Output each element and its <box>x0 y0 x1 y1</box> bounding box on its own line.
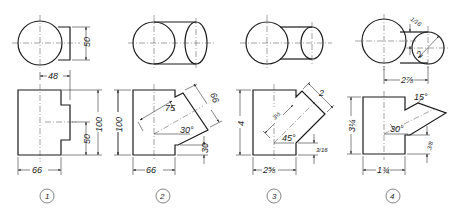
figure-2-front-view: 75 66 30° 30 100 66 <box>114 84 222 175</box>
dim-offset-bottom: 3/8 <box>426 140 434 150</box>
dim-width: 66 <box>146 165 156 175</box>
dim-branch-length: 75 <box>165 103 176 113</box>
dim-tip-angle: 15° <box>414 92 428 102</box>
dim-height: 100 <box>114 117 124 132</box>
figure-4-front-view: 15° 30° 3¼ 3/8 1¾ <box>346 91 446 175</box>
figure-3-label: 3 <box>267 189 281 203</box>
figure-2-top-view <box>128 15 214 70</box>
figure-2: 75 66 30° 30 100 66 2 <box>114 15 222 203</box>
dim-center-distance: 2⅞ <box>400 75 414 85</box>
figure-4-top-view: 1/16 2 2⅞ <box>355 14 450 86</box>
dim-width: 2⅝ <box>262 165 276 175</box>
svg-text:4: 4 <box>390 192 395 201</box>
dim-height: 4 <box>236 121 246 126</box>
dim-angle: 30° <box>180 125 194 135</box>
figure-3: 3½ 2 45° 3/16 4 2⅝ 3 <box>236 15 334 203</box>
svg-text:1: 1 <box>45 192 49 201</box>
svg-text:2: 2 <box>159 192 165 201</box>
dim-angle: 45° <box>282 133 296 143</box>
dim-top-height: 50 <box>82 37 92 47</box>
figure-2-label: 2 <box>156 189 170 203</box>
dim-branch-height: 50 <box>82 134 92 144</box>
figure-3-top-view <box>240 15 332 70</box>
dim-offset-bottom: 3/16 <box>316 147 328 153</box>
dim-height: 3¼ <box>347 119 357 132</box>
dim-top-gap: 1/16 <box>409 16 423 28</box>
figure-1: 50 48 50 100 100 66 <box>12 15 124 203</box>
figure-1-front-view: 48 50 100 100 66 <box>18 70 124 175</box>
figure-4: 1/16 2 2⅞ 15° 30° 3¼ <box>346 14 450 203</box>
figure-4-label: 4 <box>386 189 400 203</box>
dim-width: 1¾ <box>377 165 390 175</box>
dim-width: 66 <box>32 165 42 175</box>
dim-offset: 48 <box>48 71 58 81</box>
orthographic-drawings-sheet: 50 48 50 100 100 66 <box>0 0 465 216</box>
dim-branch-diameter: 2 <box>318 88 324 98</box>
dim-height-inner: 100 <box>94 117 104 132</box>
svg-text:3: 3 <box>272 192 277 201</box>
figure-3-front-view: 3½ 2 45° 3/16 4 2⅝ <box>236 82 334 175</box>
dim-offset-bottom: 30 <box>200 143 210 153</box>
figure-1-top-view: 50 <box>12 15 92 70</box>
figure-1-label: 1 <box>40 189 54 203</box>
dim-angle: 30° <box>390 124 404 134</box>
